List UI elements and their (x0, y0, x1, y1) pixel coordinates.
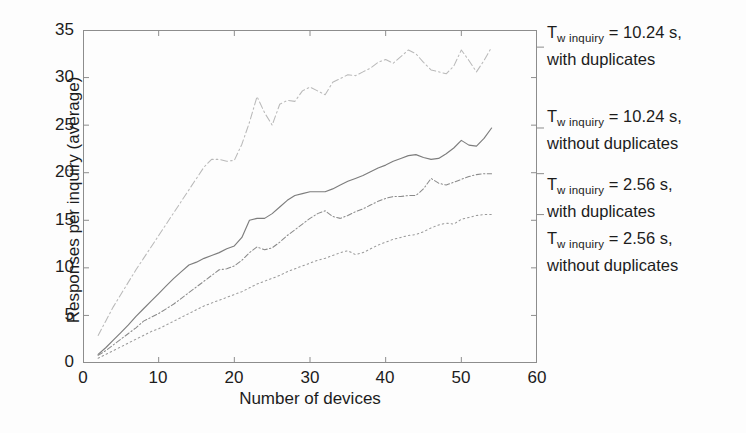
legend-line2-1: without duplicates (547, 133, 743, 154)
series-line-t1024_with_dup (98, 47, 491, 335)
y-tick-label-5: 5 (30, 305, 74, 325)
legend-subscript-0: w inquiry (557, 32, 604, 44)
series-line-t256_without_dup (98, 215, 491, 359)
figure-canvas: Responses per inquiry (average) 0 5 10 1… (0, 0, 746, 433)
legend-symbol-3: T (547, 228, 557, 249)
legend: Tw inquiry = 10.24 s, with duplicates Tw… (547, 22, 743, 322)
y-tick-label-15: 15 (30, 210, 74, 230)
legend-value-0: = 10.24 s, (604, 23, 682, 41)
x-tick-label-0: 0 (63, 368, 103, 388)
legend-symbol-0: T (547, 22, 557, 43)
legend-line2-2: with duplicates (547, 201, 743, 222)
legend-line2-3: without duplicates (547, 255, 743, 276)
y-tick-label-30: 30 (30, 67, 74, 87)
x-tick-label-50: 50 (441, 368, 481, 388)
legend-value-1: = 10.24 s, (604, 107, 682, 125)
x-tick-label-10: 10 (138, 368, 178, 388)
plot-area (83, 30, 537, 363)
y-tick-label-25: 25 (30, 115, 74, 135)
legend-entry-2: Tw inquiry = 2.56 s, with duplicates (547, 174, 743, 222)
legend-entry-0: Tw inquiry = 10.24 s, with duplicates (547, 22, 743, 70)
legend-symbol-2: T (547, 174, 557, 195)
x-tick-label-20: 20 (214, 368, 254, 388)
legend-value-3: = 2.56 s, (604, 229, 672, 247)
legend-symbol-1: T (547, 106, 557, 127)
data-series-group (83, 30, 537, 363)
legend-value-2: = 2.56 s, (604, 175, 672, 193)
y-tick-label-35: 35 (30, 20, 74, 40)
x-axis-label: Number of devices (83, 389, 537, 409)
legend-subscript-2: w inquiry (557, 184, 604, 196)
legend-entry-3: Tw inquiry = 2.56 s, without duplicates (547, 228, 743, 276)
y-tick-label-20: 20 (30, 162, 74, 182)
series-line-t256_with_dup (98, 174, 491, 356)
legend-subscript-1: w inquiry (557, 116, 604, 128)
x-tick-label-30: 30 (290, 368, 330, 388)
legend-entry-1: Tw inquiry = 10.24 s, without duplicates (547, 106, 743, 154)
legend-line2-0: with duplicates (547, 49, 743, 70)
y-tick-label-10: 10 (30, 257, 74, 277)
x-tick-label-60: 60 (517, 368, 557, 388)
series-line-t1024_without_dup (98, 128, 491, 354)
legend-subscript-3: w inquiry (557, 238, 604, 250)
x-tick-label-40: 40 (365, 368, 405, 388)
